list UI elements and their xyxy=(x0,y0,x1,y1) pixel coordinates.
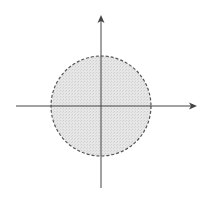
diagram-canvas xyxy=(0,0,209,200)
